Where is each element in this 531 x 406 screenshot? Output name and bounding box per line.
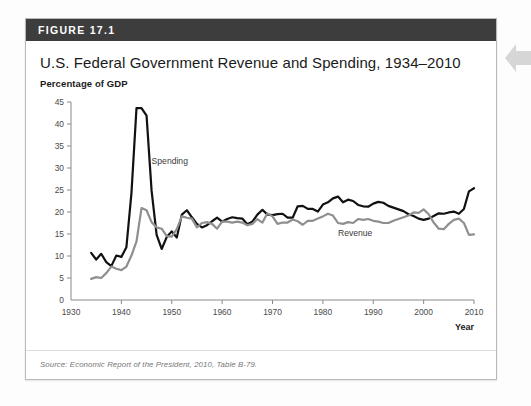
- x-tick-label: 1950: [162, 307, 181, 317]
- x-axis-title: Year: [455, 322, 475, 332]
- series-annotation-revenue: Revenue: [338, 228, 373, 238]
- x-tick-label: 1980: [314, 307, 333, 317]
- x-tick-label: 1940: [112, 307, 131, 317]
- series-annotation-spending: Spending: [152, 156, 189, 166]
- figure-source-note: Source: Economic Report of the President…: [40, 360, 257, 369]
- y-tick-label: 0: [59, 295, 64, 305]
- x-tick-label: 1990: [364, 307, 383, 317]
- y-tick-label: 40: [55, 119, 65, 129]
- y-axis-title: Percentage of GDP: [26, 71, 496, 89]
- series-line-spending: [91, 108, 474, 266]
- revenue-spending-line-chart: 0510152025303540451930194019501960197019…: [26, 90, 496, 340]
- figure-header-bar: FIGURE 17.1: [26, 19, 496, 41]
- source-divider: [26, 350, 496, 351]
- y-tick-label: 15: [55, 229, 65, 239]
- chart-plot-area: 0510152025303540451930194019501960197019…: [26, 90, 496, 340]
- figure-container: FIGURE 17.1 U.S. Federal Government Reve…: [25, 18, 497, 380]
- figure-title: U.S. Federal Government Revenue and Spen…: [26, 41, 496, 71]
- y-tick-label: 20: [55, 207, 65, 217]
- x-tick-label: 2000: [414, 307, 433, 317]
- y-tick-label: 35: [55, 141, 65, 151]
- y-tick-label: 45: [55, 97, 65, 107]
- x-tick-label: 1930: [62, 307, 81, 317]
- figure-number-label: FIGURE 17.1: [38, 24, 115, 36]
- left-pointing-tab-arrow-icon: [505, 36, 531, 80]
- x-tick-label: 1970: [263, 307, 282, 317]
- x-tick-label: 1960: [213, 307, 232, 317]
- y-tick-label: 10: [55, 251, 65, 261]
- y-tick-label: 30: [55, 163, 65, 173]
- y-tick-label: 25: [55, 185, 65, 195]
- y-tick-label: 5: [59, 273, 64, 283]
- x-tick-label: 2010: [465, 307, 484, 317]
